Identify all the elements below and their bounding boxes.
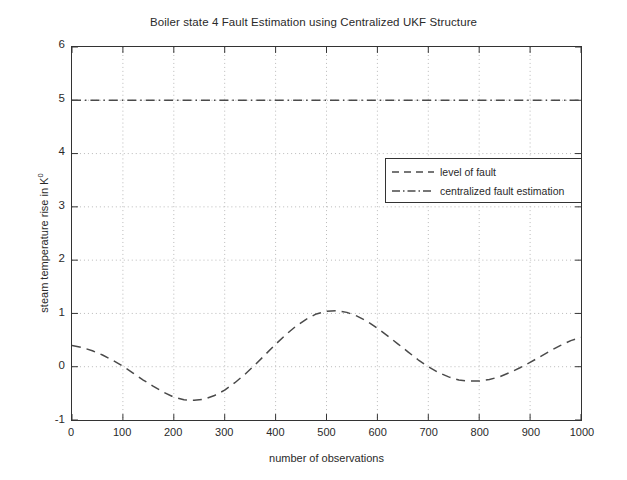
- x-tick-label: 800: [457, 426, 503, 438]
- x-tick-label: 500: [304, 426, 350, 438]
- horizontal-gridlines: [72, 100, 581, 366]
- x-tick-label: 200: [150, 426, 196, 438]
- legend-line-sample-dashed: [391, 165, 435, 179]
- x-tick-label: 0: [48, 426, 94, 438]
- series-line-0: [72, 311, 581, 401]
- y-axis-label-superscript: 0: [36, 173, 45, 177]
- legend-item-level-of-fault: level of fault: [386, 162, 581, 181]
- vertical-gridlines: [123, 47, 530, 420]
- legend-label-centralized-fault-estimation: centralized fault estimation: [440, 185, 564, 197]
- y-tick-label: 1: [25, 306, 65, 318]
- legend-item-centralized-fault-estimation: centralized fault estimation: [386, 181, 581, 200]
- y-tick-label: 0: [25, 359, 65, 371]
- y-tick-label: 4: [25, 145, 65, 157]
- figure-canvas: Boiler state 4 Fault Estimation using Ce…: [0, 0, 627, 480]
- y-tick-label: -1: [25, 413, 65, 425]
- chart-legend: level of fault centralized fault estimat…: [385, 158, 582, 203]
- x-tick-label: 700: [406, 426, 452, 438]
- x-tick-label: 100: [99, 426, 145, 438]
- x-tick-label: 1000: [559, 426, 605, 438]
- y-tick-label: 2: [25, 252, 65, 264]
- x-axis-label: number of observations: [71, 452, 582, 464]
- y-tick-label: 6: [25, 38, 65, 50]
- y-tick-label: 5: [25, 92, 65, 104]
- y-axis-label: steam temperature rise in K0: [34, 128, 54, 358]
- plot-svg: [72, 47, 581, 420]
- y-tick-label: 3: [25, 199, 65, 211]
- x-tick-label: 900: [508, 426, 554, 438]
- legend-line-sample-dashdot: [391, 184, 435, 198]
- plot-area: [71, 46, 582, 421]
- x-tick-label: 400: [252, 426, 298, 438]
- x-tick-label: 600: [355, 426, 401, 438]
- legend-label-level-of-fault: level of fault: [440, 166, 496, 178]
- chart-title: Boiler state 4 Fault Estimation using Ce…: [0, 16, 627, 28]
- x-tick-label: 300: [201, 426, 247, 438]
